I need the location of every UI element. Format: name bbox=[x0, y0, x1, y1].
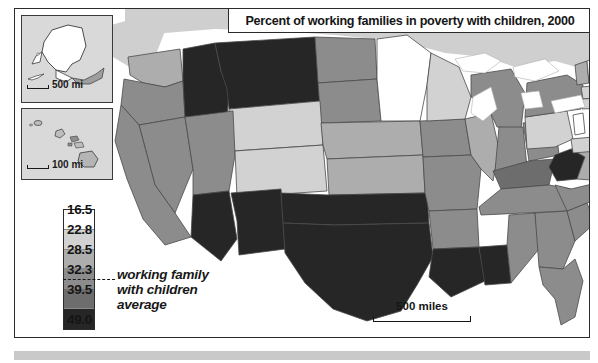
average-dash-line bbox=[63, 279, 115, 280]
legend-value-1: 16.5 bbox=[48, 202, 92, 217]
average-label-line-1: working family bbox=[117, 267, 209, 282]
poverty-choropleth-figure: Percent of working families in poverty w… bbox=[0, 0, 598, 363]
legend-value-4: 32.3 bbox=[48, 262, 92, 277]
state-IA bbox=[420, 119, 471, 157]
state-ND bbox=[315, 37, 377, 83]
legend-value-3: 28.5 bbox=[48, 242, 92, 257]
hawaii-maui bbox=[74, 142, 84, 148]
state-MD bbox=[571, 137, 590, 153]
legend-value-6: 49.0 bbox=[48, 312, 92, 327]
legend: 16.5 22.8 28.5 32.3 39.5 49.0 working fa… bbox=[15, 200, 205, 338]
hawaii-kauai bbox=[34, 121, 42, 126]
inset-hawaii: 100 mi bbox=[21, 108, 113, 180]
average-label-line-3: average bbox=[117, 297, 209, 312]
map-scalebar: 500 miles bbox=[369, 300, 475, 312]
state-NJ bbox=[573, 113, 585, 135]
page-title: Percent of working families in poverty w… bbox=[245, 14, 574, 28]
state-AR bbox=[429, 209, 479, 249]
alaska-scalebar-label: 500 mi bbox=[52, 79, 83, 90]
legend-value-2: 22.8 bbox=[48, 222, 92, 237]
state-MT bbox=[215, 37, 320, 109]
hawaii-scalebar-label: 100 mi bbox=[52, 159, 83, 170]
map-scalebar-label: 500 miles bbox=[369, 300, 475, 312]
state-OK bbox=[281, 193, 429, 225]
map-plate: Percent of working families in poverty w… bbox=[14, 8, 590, 338]
state-MA bbox=[581, 85, 590, 99]
state-WY bbox=[229, 101, 323, 151]
legend-value-5: 39.5 bbox=[48, 282, 92, 297]
state-MN bbox=[377, 35, 431, 121]
state-SD bbox=[318, 79, 381, 123]
average-label-line-2: with children bbox=[117, 282, 209, 297]
map-title-bar: Percent of working families in poverty w… bbox=[228, 9, 590, 33]
bottom-band bbox=[14, 351, 590, 360]
state-MS bbox=[479, 245, 511, 285]
alaska-scalebar-line bbox=[27, 85, 49, 89]
average-label: working family with children average bbox=[117, 267, 209, 312]
map-scalebar-line bbox=[373, 316, 471, 322]
state-KS bbox=[327, 155, 425, 195]
state-NM bbox=[231, 189, 285, 255]
state-VT bbox=[575, 61, 589, 85]
inset-alaska: 500 mi bbox=[21, 15, 113, 103]
state-MO bbox=[423, 155, 481, 211]
hawaii-scalebar-line bbox=[27, 165, 49, 169]
state-NE bbox=[321, 121, 423, 159]
